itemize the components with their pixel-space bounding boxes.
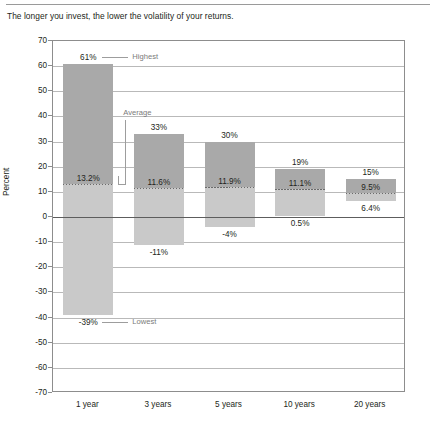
bar-group[interactable]: [275, 41, 325, 391]
plot-inner: 61%13.2%-39%33%11.6%-11%30%11.9%-4%19%11…: [53, 41, 404, 391]
bar-segment-below-average: [346, 193, 396, 201]
y-tick-label: 40: [17, 111, 47, 120]
y-tick-label: -10: [17, 237, 47, 246]
bar-average-label: 11.1%: [275, 179, 325, 188]
bar-high-label: 61%: [63, 52, 113, 61]
y-tick-label: -30: [17, 287, 47, 296]
lowest-annotation-label: Lowest: [132, 317, 156, 326]
bar-group[interactable]: [205, 41, 255, 391]
bar-segment-below-average: [205, 187, 255, 227]
y-tick-label: -70: [17, 388, 47, 397]
bar-low-label: -39%: [63, 318, 113, 327]
bar-average-label: 11.9%: [205, 177, 255, 186]
bar-segment-below-average: [63, 184, 113, 315]
x-tick-label: 10 years: [259, 400, 339, 409]
average-marker-line: [134, 188, 184, 189]
y-tick-label: -60: [17, 362, 47, 371]
y-tick-label: 10: [17, 186, 47, 195]
zero-axis-line: [53, 217, 404, 218]
bar-average-label: 11.6%: [134, 177, 184, 186]
header-divider: [6, 4, 430, 5]
average-marker-line: [275, 189, 325, 190]
bar-average-label: 9.5%: [346, 183, 396, 192]
bar-low-label: -11%: [134, 247, 184, 256]
average-marker-line: [63, 184, 113, 185]
y-tick-mark: [48, 392, 52, 393]
plot-area: 61%13.2%-39%33%11.6%-11%30%11.9%-4%19%11…: [52, 40, 405, 392]
bar-low-label: 0.5%: [275, 218, 325, 227]
bar-low-label: 6.4%: [346, 203, 396, 212]
average-leader-line: [125, 120, 126, 183]
y-tick-label: -20: [17, 262, 47, 271]
y-tick-label: 70: [17, 36, 47, 45]
bar-high-label: 15%: [346, 168, 396, 177]
x-tick-label: 1 year: [47, 400, 127, 409]
y-tick-label: 60: [17, 61, 47, 70]
y-tick-label: -40: [17, 312, 47, 321]
bar-high-label: 30%: [205, 130, 255, 139]
bar-segment-below-average: [275, 189, 325, 216]
bar-low-label: -4%: [205, 230, 255, 239]
average-annotation-label: Average: [123, 108, 151, 117]
x-tick-label: 5 years: [189, 400, 269, 409]
bar-high-label: 33%: [134, 123, 184, 132]
bar-high-label: 19%: [275, 158, 325, 167]
y-tick-label: 50: [17, 86, 47, 95]
bar-group[interactable]: [134, 41, 184, 391]
x-tick-label: 3 years: [118, 400, 198, 409]
y-tick-label: -50: [17, 337, 47, 346]
bar-segment-above-average: [63, 64, 113, 184]
bar-group[interactable]: [63, 41, 113, 391]
average-marker-line: [346, 193, 396, 194]
chart-root: The longer you invest, the lower the vol…: [0, 0, 435, 427]
highest-annotation-label: Highest: [132, 52, 158, 61]
y-axis-title: Percent: [2, 168, 11, 196]
y-tick-label: 0: [17, 212, 47, 221]
bar-group[interactable]: [346, 41, 396, 391]
average-marker-line: [205, 187, 255, 188]
y-tick-label: 20: [17, 161, 47, 170]
bar-average-label: 13.2%: [63, 173, 113, 182]
x-tick-label: 20 years: [330, 400, 410, 409]
y-tick-label: 30: [17, 136, 47, 145]
average-bracket: [118, 176, 126, 185]
chart-title: The longer you invest, the lower the vol…: [7, 11, 234, 21]
